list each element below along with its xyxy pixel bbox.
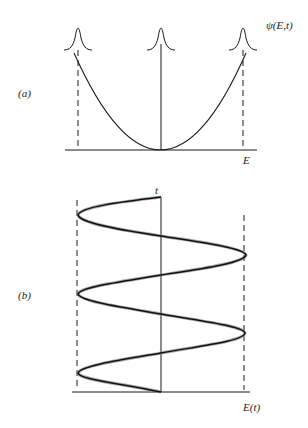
gaussian-left-icon — [64, 28, 92, 50]
panel-a-x-axis-label: E — [243, 155, 250, 166]
diagram-svg — [0, 0, 308, 428]
gaussian-right-icon — [229, 28, 257, 50]
panel-b-t-axis-label: t — [155, 185, 158, 196]
panel-a-parabola — [74, 53, 246, 150]
panel-a — [64, 28, 257, 150]
panel-b-x-axis-label: E(t) — [243, 402, 260, 413]
panel-a-label: (a) — [18, 88, 31, 99]
panel-b-oscillation-curve — [78, 197, 246, 392]
panel-b-label: (b) — [18, 290, 31, 301]
panel-b — [72, 197, 250, 392]
figure: ψ(E,t) (a) E t (b) E(t) — [0, 0, 308, 428]
wavefunction-label: ψ(E,t) — [266, 20, 293, 31]
